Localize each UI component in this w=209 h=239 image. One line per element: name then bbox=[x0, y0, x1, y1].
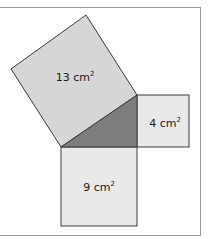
label-13: 13 cm2 bbox=[56, 70, 95, 84]
label-9: 9 cm2 bbox=[83, 180, 115, 194]
label-4: 4 cm2 bbox=[149, 116, 181, 130]
